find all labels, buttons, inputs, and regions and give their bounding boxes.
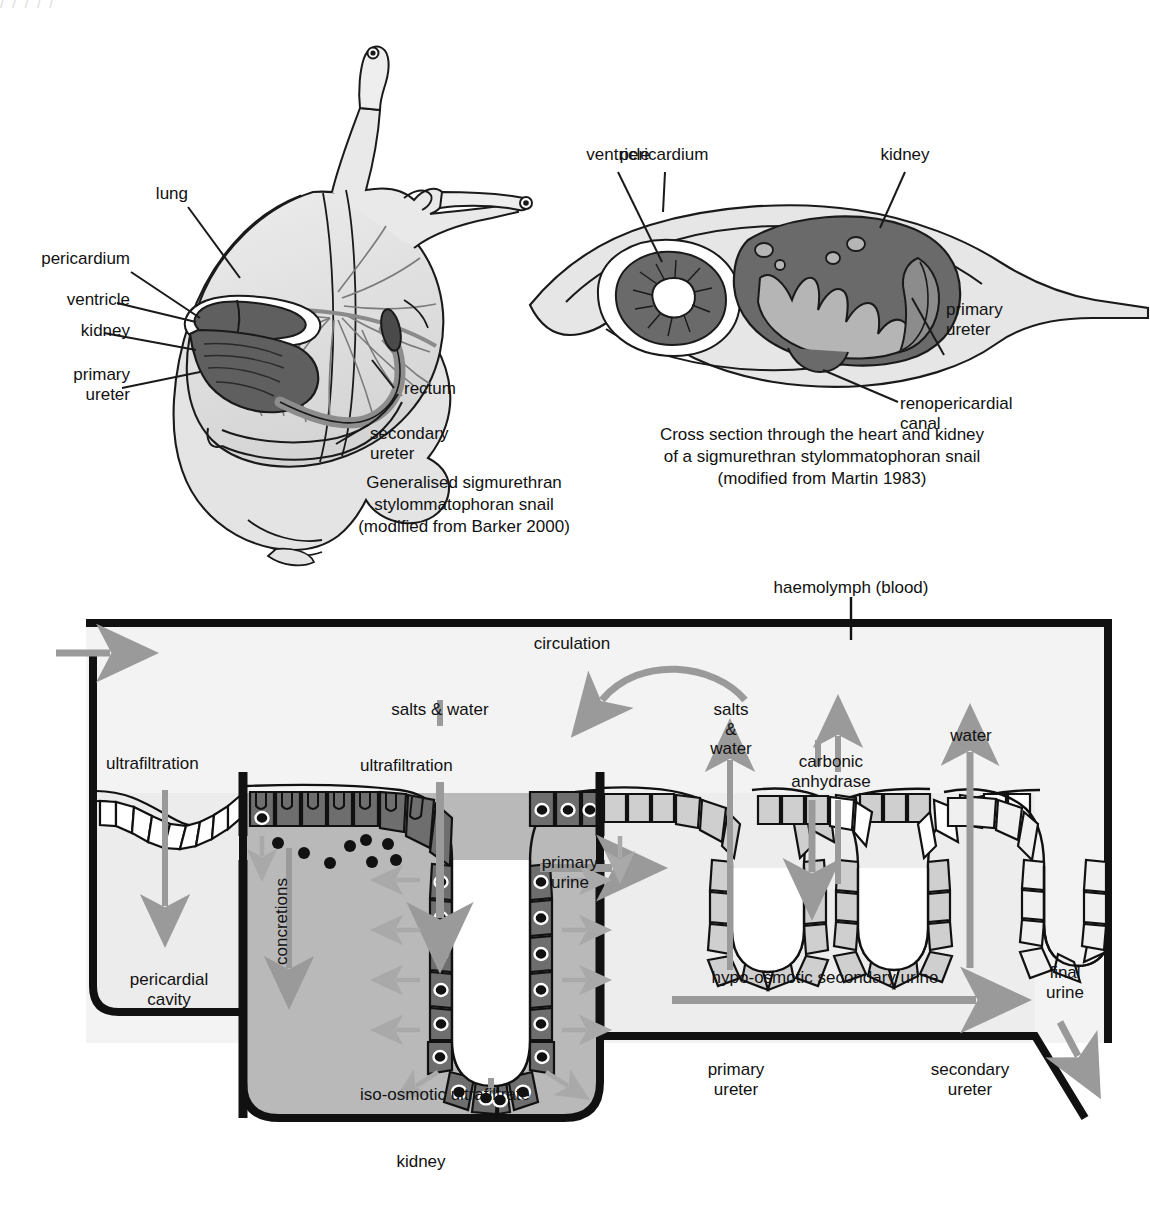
- panel-c-label-hypo-osmotic-secondary-urine: hypo-osmotic secondary urine: [660, 968, 990, 987]
- panel-c-label-haemolymph: haemolymph (blood): [741, 578, 961, 597]
- panel-c-label-concretions: concretions: [272, 878, 292, 965]
- panel-c-label-circulation: circulation: [497, 634, 647, 653]
- panel-c-label-primary-urine: primary urine: [524, 853, 616, 892]
- panel-c-label-secondary-ureter: secondary ureter: [900, 1060, 1040, 1099]
- panel-c-label-ultrafiltration-left: ultrafiltration: [106, 754, 266, 773]
- panel-c-label-ultrafiltration-mid: ultrafiltration: [360, 756, 530, 775]
- panel-c-label-kidney: kidney: [361, 1152, 481, 1171]
- panel-c-label-iso-osmotic-ultrafiltrate: iso-osmotic ultrafiltrate: [305, 1085, 585, 1104]
- panel-c-label-water: water: [925, 726, 1017, 745]
- panel-c-label-salts-water-right: salts & water: [690, 700, 772, 759]
- panel-c-artwork: [0, 0, 1150, 1209]
- panel-c-label-final-urine: final urine: [1022, 963, 1108, 1002]
- panel-c-label-carbonic-anhydrase: carbonic anhydrase: [766, 752, 896, 791]
- panel-c-label-primary-ureter: primary ureter: [676, 1060, 796, 1099]
- figure-canvas: / / / / /: [0, 0, 1150, 1209]
- panel-c-label-salts-water-left: salts & water: [360, 700, 520, 719]
- panel-c-label-pericardial-cavity: pericardial cavity: [96, 970, 242, 1009]
